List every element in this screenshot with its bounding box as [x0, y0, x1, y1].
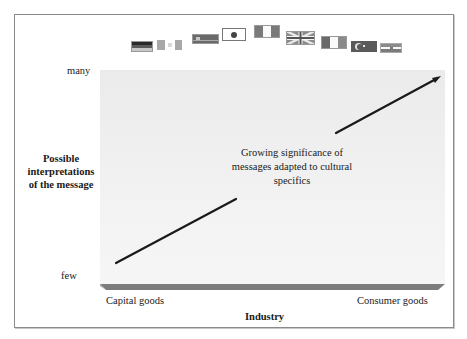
annotation-line: specifics	[222, 174, 362, 188]
annotation-line: Growing significance of	[222, 146, 362, 160]
annotation-text: Growing significance of messages adapted…	[222, 146, 362, 188]
annotation-line: messages adapted to cultural	[222, 160, 362, 174]
y-axis-top-label: many	[67, 65, 90, 76]
y-axis-title-line: Possible	[20, 152, 102, 165]
x-axis-left-label: Capital goods	[106, 295, 164, 306]
x-axis-title: Industry	[245, 311, 284, 322]
y-axis-title-line: interpretations	[20, 165, 102, 178]
y-axis-title-line: of the message	[20, 178, 102, 191]
y-axis-title: Possible interpretations of the message	[20, 152, 102, 191]
y-axis-bottom-label: few	[61, 270, 77, 281]
x-axis-right-label: Consumer goods	[357, 295, 428, 306]
